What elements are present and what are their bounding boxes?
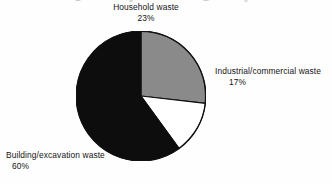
pie-label-household-percent: 23% — [113, 13, 179, 24]
pie-label-industrial: Industrial/commercial waste 17% — [215, 66, 321, 88]
pie-label-building: Building/excavation waste 60% — [6, 150, 105, 172]
pie-chart-graphic — [76, 31, 206, 161]
pie-label-industrial-percent: 17% — [215, 77, 321, 88]
pie-slice-household[interactable] — [141, 31, 206, 103]
pie-label-household: Household waste 23% — [113, 2, 179, 24]
pie-chart-figure: Household waste 23% Industrial/commercia… — [0, 0, 332, 184]
pie-label-building-percent: 60% — [6, 161, 105, 172]
pie-label-household-name: Household waste — [113, 2, 179, 12]
pie-label-industrial-name: Industrial/commercial waste — [215, 66, 321, 76]
pie-label-building-name: Building/excavation waste — [6, 150, 105, 160]
